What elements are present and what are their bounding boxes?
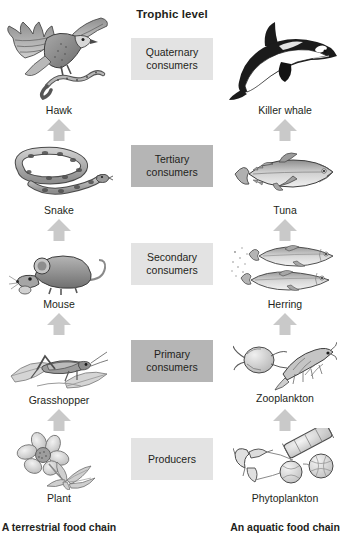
killer-whale-illustration bbox=[229, 16, 341, 100]
organism-label-hawk: Hawk bbox=[0, 104, 118, 116]
grasshopper-illustration bbox=[7, 336, 111, 394]
up-arrow-icon bbox=[272, 118, 298, 142]
level-label-line2: consumers bbox=[146, 166, 197, 178]
herring-illustration bbox=[229, 238, 341, 296]
organism-label-phytoplankton: Phytoplankton bbox=[226, 492, 344, 504]
level-label-line2: consumers bbox=[146, 264, 197, 276]
organism-label-mouse: Mouse bbox=[0, 298, 118, 310]
organism-label-tuna: Tuna bbox=[226, 204, 344, 216]
tuna-illustration bbox=[231, 146, 339, 202]
level-box-primary-consumers: Primary consumers bbox=[131, 340, 213, 382]
level-label-line1: Tertiary bbox=[155, 153, 189, 165]
hawk-illustration bbox=[3, 8, 115, 100]
level-box-secondary-consumers: Secondary consumers bbox=[131, 243, 213, 285]
level-box-producers: Producers bbox=[131, 438, 213, 480]
zooplankton-illustration bbox=[233, 334, 337, 392]
trophic-level-column: Quaternary consumers Tertiary consumers … bbox=[118, 0, 226, 538]
up-arrow-icon bbox=[272, 312, 298, 336]
level-label-line2: consumers bbox=[146, 361, 197, 373]
level-label-line1: Producers bbox=[148, 453, 196, 466]
level-label-line2: consumers bbox=[146, 59, 197, 71]
up-arrow-icon bbox=[46, 408, 72, 432]
level-label-line1: Quaternary bbox=[146, 46, 199, 58]
terrestrial-food-chain: Hawk bbox=[0, 0, 118, 538]
phytoplankton-illustration bbox=[233, 428, 337, 490]
up-arrow-icon bbox=[46, 312, 72, 336]
organism-label-zooplankton: Zooplankton bbox=[226, 392, 344, 404]
up-arrow-icon bbox=[46, 118, 72, 142]
level-label-line1: Secondary bbox=[147, 251, 197, 263]
aquatic-caption: An aquatic food chain bbox=[226, 521, 344, 533]
organism-label-killer-whale: Killer whale bbox=[226, 104, 344, 116]
organism-label-plant: Plant bbox=[0, 492, 118, 504]
level-label-line1: Primary bbox=[154, 348, 190, 360]
mouse-illustration bbox=[9, 240, 109, 300]
up-arrow-icon bbox=[46, 218, 72, 242]
food-chain-diagram: Trophic level Quaternary consumers Terti… bbox=[0, 0, 344, 538]
organism-label-snake: Snake bbox=[0, 204, 118, 216]
aquatic-food-chain: Killer whale bbox=[226, 0, 344, 538]
terrestrial-caption: A terrestrial food chain bbox=[0, 521, 118, 533]
organism-label-herring: Herring bbox=[226, 298, 344, 310]
level-box-tertiary-consumers: Tertiary consumers bbox=[131, 145, 213, 187]
level-box-quaternary-consumers: Quaternary consumers bbox=[131, 38, 213, 80]
plant-illustration bbox=[9, 432, 109, 490]
organism-label-grasshopper: Grasshopper bbox=[0, 394, 118, 406]
snake-illustration bbox=[5, 142, 113, 202]
